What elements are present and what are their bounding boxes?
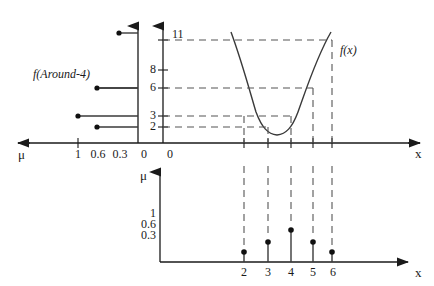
- bottom-x-axis-label: x: [415, 266, 422, 279]
- top-y-origin-label: 0: [167, 148, 173, 160]
- bottom-x-tick-label-5: 5: [310, 266, 316, 278]
- top-y-tick-label-6: 6: [150, 81, 156, 93]
- top-x-axis-label: x: [415, 147, 422, 160]
- top-y-tick-label-2: 2: [150, 120, 156, 132]
- fx-curve-label: f(x): [340, 44, 357, 56]
- fuzzy-extension-principle-figure: 11 8 6 3 2 0 0 1 0.6 0.3 μ x f(x) f(Arou…: [0, 0, 434, 286]
- around-4-membership-stems: [244, 230, 332, 262]
- top-mu-tick-label-0-6: 0.6: [91, 148, 106, 160]
- bottom-mu-tick-label-0-3: 0.3: [141, 229, 156, 241]
- bottom-mu-axis-label: μ: [140, 169, 147, 182]
- figure-canvas: [0, 0, 434, 286]
- top-mu-axis-label: μ: [18, 148, 25, 161]
- top-mu-tick-label-1: 1: [75, 148, 81, 160]
- top-mu-origin-label: 0: [141, 148, 147, 160]
- bottom-vertical-dashed-lines: [244, 166, 332, 246]
- bottom-x-tick-label-4: 4: [288, 266, 294, 278]
- f-around-4-label: f(Around-4): [33, 68, 90, 80]
- top-mu-tick-label-0-3: 0.3: [113, 148, 128, 160]
- parabola-curve: [231, 32, 331, 135]
- bottom-x-tick-label-3: 3: [265, 266, 271, 278]
- bottom-x-tick-label-6: 6: [330, 266, 336, 278]
- top-y-tick-label-11: 11: [172, 28, 184, 40]
- around-4-membership-dots: [241, 227, 335, 255]
- bottom-x-tick-label-2: 2: [241, 266, 247, 278]
- top-y-tick-label-8: 8: [150, 63, 156, 75]
